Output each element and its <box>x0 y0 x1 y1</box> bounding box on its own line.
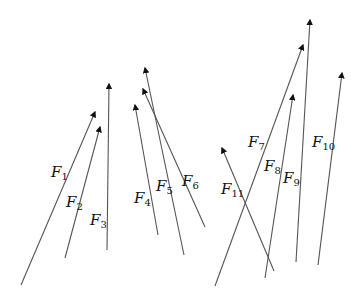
vector-subscript: 11 <box>231 188 244 199</box>
vector-symbol: F <box>51 163 61 181</box>
force-vector-arrow-f4 <box>135 105 158 235</box>
vector-label-f11: F11 <box>221 182 244 199</box>
vector-label-f7: F7 <box>248 135 265 152</box>
force-vector-arrow-f3 <box>107 84 109 250</box>
vector-subscript: 1 <box>61 171 67 182</box>
vector-symbol: F <box>182 172 192 190</box>
vector-symbol: F <box>66 193 76 211</box>
vector-subscript: 7 <box>258 141 264 152</box>
vector-label-f9: F9 <box>283 171 300 188</box>
vector-subscript: 5 <box>166 185 172 196</box>
force-vector-arrow-f1 <box>21 112 95 285</box>
force-vector-arrow-f10 <box>318 73 342 265</box>
vector-subscript: 2 <box>76 201 82 212</box>
vector-label-f1: F1 <box>51 165 68 182</box>
vector-symbol: F <box>221 180 231 198</box>
vector-label-f5: F5 <box>156 179 173 196</box>
vector-symbol: F <box>134 189 144 207</box>
vector-symbol: F <box>264 157 274 175</box>
vector-symbol: F <box>156 177 166 195</box>
force-vector-diagram: F1F2F3F4F5F6F7F8F9F10F11 <box>0 0 360 301</box>
vector-subscript: 10 <box>322 141 335 152</box>
force-vector-arrow-f5 <box>145 68 184 255</box>
vector-symbol: F <box>312 133 322 151</box>
vector-symbol: F <box>248 133 258 151</box>
vector-subscript: 9 <box>293 177 299 188</box>
vector-label-f8: F8 <box>264 159 281 176</box>
vector-symbol: F <box>90 211 100 229</box>
vector-subscript: 3 <box>100 219 106 230</box>
force-vector-arrow-f7 <box>215 45 303 286</box>
vector-label-f6: F6 <box>182 174 199 191</box>
vector-label-f2: F2 <box>66 195 83 212</box>
vector-label-f4: F4 <box>134 191 151 208</box>
vector-subscript: 6 <box>192 180 198 191</box>
vector-subscript: 8 <box>274 165 280 176</box>
vector-symbol: F <box>283 169 293 187</box>
vector-subscript: 4 <box>144 197 150 208</box>
force-vector-arrow-f9 <box>296 20 310 262</box>
vector-lines <box>0 0 360 301</box>
vector-label-f3: F3 <box>90 213 107 230</box>
vector-label-f10: F10 <box>312 135 335 152</box>
